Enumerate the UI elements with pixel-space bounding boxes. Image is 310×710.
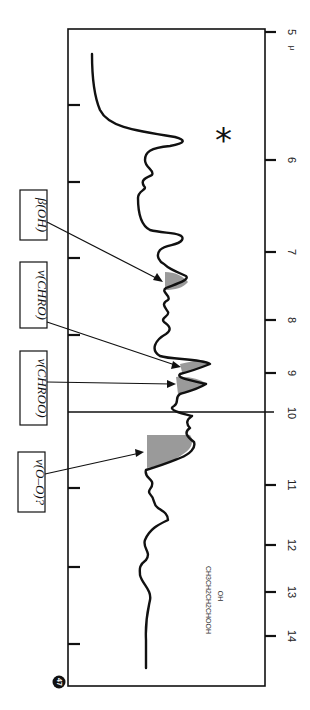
label-nu-oo: ν(O–O)?	[18, 449, 144, 512]
tick-label-9: 9	[286, 370, 298, 376]
label-text-nu-chroo: ν(CHROO)	[35, 358, 50, 417]
tick-label-8: 8	[286, 317, 298, 323]
tick-label-14: 14	[286, 630, 298, 642]
asterisk-marker: *	[215, 120, 232, 160]
axis-unit: μ	[288, 46, 297, 51]
right-axis-ticks	[265, 32, 276, 636]
label-nu-chroo: ν(CHROO)	[20, 351, 176, 425]
label-text-nu-oo: ν(O–O)?	[33, 459, 48, 506]
tick-label-7: 7	[286, 249, 298, 255]
figure-number: 47	[56, 678, 63, 686]
axis-labels: 5 μ 6 7 8 9 10 11 12 13 14	[286, 29, 298, 642]
tick-label-11: 11	[286, 479, 298, 490]
spectrum-figure: 5 μ 6 7 8 9 10 11 12 13 14 * β(OH) ν(CHR…	[0, 0, 310, 710]
formula-sub: OH	[217, 591, 224, 602]
left-ticks	[68, 105, 80, 644]
compound-formula: CH3CH2CH2CHOOH OH	[205, 566, 224, 634]
shaded-bands	[147, 272, 210, 468]
tick-label-6: 6	[286, 157, 298, 163]
tick-label-12: 12	[286, 539, 298, 551]
tick-label-10: 10	[286, 407, 298, 419]
formula-main: CH3CH2CH2CHOOH	[205, 566, 212, 634]
tick-label-5: 5	[286, 29, 298, 35]
tick-label-13: 13	[286, 586, 298, 598]
spectrum-curve	[92, 54, 210, 668]
figure-number-badge: 47	[53, 676, 66, 689]
label-text-beta-oh: β(OH)	[35, 197, 50, 232]
label-text-nu-chro: ν(CHRO)	[35, 270, 50, 320]
